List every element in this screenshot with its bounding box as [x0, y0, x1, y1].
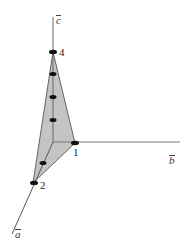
- a-axis: [12, 142, 53, 234]
- intercept-b-label: 1: [73, 147, 79, 158]
- point-c-4: [49, 50, 57, 54]
- intercept-c-label: 4: [59, 47, 65, 58]
- point-b-1: [71, 141, 79, 145]
- point-c-1: [50, 118, 57, 122]
- point-a-2: [30, 181, 38, 185]
- point-a-1: [40, 161, 47, 165]
- point-c-3: [50, 72, 57, 76]
- b-axis-label: b: [169, 155, 175, 166]
- plane-diagram: [0, 0, 185, 242]
- c-axis-label: c: [56, 15, 61, 26]
- a-axis-label: a: [15, 229, 21, 240]
- point-c-2: [50, 95, 57, 99]
- intercept-a-label: 2: [40, 180, 46, 191]
- plane-face: [33, 52, 75, 183]
